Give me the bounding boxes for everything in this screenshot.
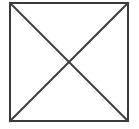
square-with-diagonals-figure (0, 0, 139, 129)
figure-canvas (0, 0, 139, 129)
